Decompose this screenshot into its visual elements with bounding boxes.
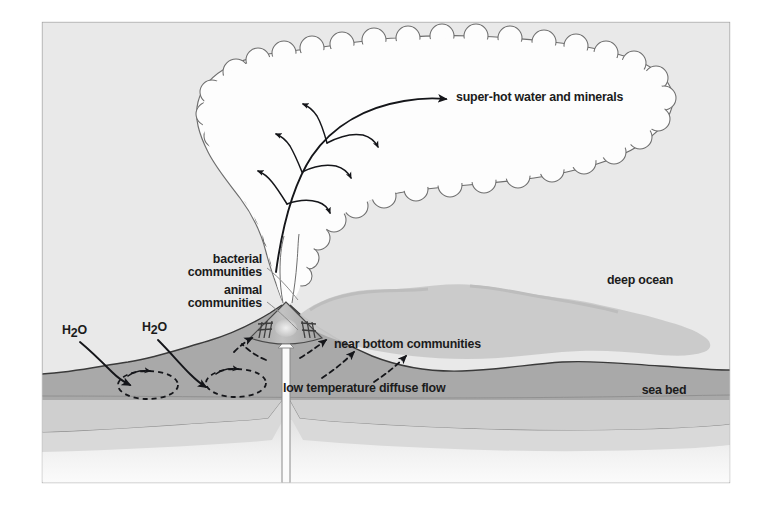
h2o-left-o: O xyxy=(77,323,87,337)
label-animal-communities-line2: communities xyxy=(188,296,263,310)
scene: super-hot water and minerals bacterial c… xyxy=(42,22,730,483)
label-bacterial-communities-line2: communities xyxy=(188,265,263,279)
label-super-hot-water: super-hot water and minerals xyxy=(456,90,624,104)
label-near-bottom-communities: near bottom communities xyxy=(334,337,481,351)
h2o-right-o: O xyxy=(157,320,167,334)
label-bacterial-communities-line1: bacterial xyxy=(213,252,262,266)
h2o-right-h: H xyxy=(142,320,151,334)
label-low-temperature-diffuse-flow: low temperature diffuse flow xyxy=(283,381,446,395)
label-animal-communities-line1: animal xyxy=(224,283,262,297)
vent-orifice-glow xyxy=(275,319,297,337)
hydrothermal-vent-diagram: super-hot water and minerals bacterial c… xyxy=(0,0,770,508)
h2o-left-h: H xyxy=(62,323,71,337)
figure-root: super-hot water and minerals bacterial c… xyxy=(0,0,770,508)
label-sea-bed: sea bed xyxy=(642,383,687,397)
label-deep-ocean: deep ocean xyxy=(607,273,673,287)
vent-conduit xyxy=(282,344,290,483)
